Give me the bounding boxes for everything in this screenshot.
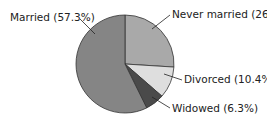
label-never-married: Never married (26%) — [172, 8, 267, 20]
leader-never-married — [152, 15, 170, 29]
slice-never-married — [125, 15, 174, 67]
label-widowed: Widowed (6.3%) — [172, 102, 258, 114]
pie-chart: Never married (26%) Divorced (10.4%) Wid… — [0, 0, 267, 124]
label-married: Married (57.3%) — [10, 11, 95, 23]
label-divorced: Divorced (10.4%) — [184, 73, 267, 85]
